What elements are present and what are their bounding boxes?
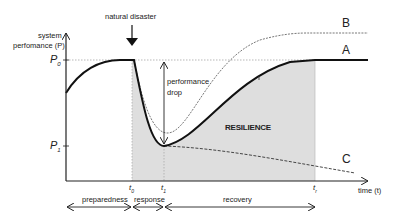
phase-response-label: response bbox=[134, 196, 165, 204]
tr-label: tr bbox=[313, 184, 317, 194]
t1-label: t1 bbox=[161, 184, 166, 194]
curve-b-label: B bbox=[342, 17, 350, 29]
natural-disaster-label: natural disaster bbox=[105, 13, 156, 21]
phase-recovery-label: recovery bbox=[223, 196, 252, 204]
performance-drop-label-line2: drop bbox=[167, 89, 182, 97]
performance-drop-label-line1: performance bbox=[167, 78, 209, 86]
curve-a-label: A bbox=[342, 44, 350, 56]
p0-label: P0 bbox=[50, 54, 61, 67]
disaster-arrow-icon bbox=[126, 38, 138, 46]
t0-label: t0 bbox=[129, 184, 134, 194]
curve-c-label: C bbox=[342, 153, 351, 165]
p1-label: P1 bbox=[50, 140, 61, 153]
y-axis-label-line1: system bbox=[38, 32, 62, 40]
y-axis-label-line2: perfomance (P) bbox=[13, 42, 65, 50]
x-axis-label: time (t) bbox=[358, 187, 381, 195]
resilience-label: RESILIENCE bbox=[225, 124, 271, 132]
resilience-area bbox=[132, 60, 315, 181]
phase-preparedness-label: preparedness bbox=[82, 196, 128, 204]
